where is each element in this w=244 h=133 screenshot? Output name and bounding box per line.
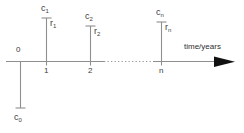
axis-tick-label-n: n <box>159 67 163 75</box>
cash-flow-label-c0-main: c <box>14 112 19 122</box>
axis-tick-label-2-text: 2 <box>88 66 92 75</box>
cash-flow-label-cn-main: c <box>156 7 161 17</box>
rate-label-rn-sub: n <box>168 27 171 33</box>
cash-flow-label-c0-sub: 0 <box>19 117 22 123</box>
cash-flow-label-c2-sub: 2 <box>90 16 93 22</box>
cash-flow-label-c2-main: c <box>85 11 90 21</box>
rate-label-r1-sub: 1 <box>53 23 56 29</box>
axis-tick-label-1: 1 <box>44 67 48 75</box>
right-arrow-icon <box>214 57 235 68</box>
cash-flow-label-c2: c2 <box>85 12 93 21</box>
cash-flow-label-c1: c1 <box>41 4 49 13</box>
axis-tick-label-0-text: 0 <box>16 45 20 54</box>
time-axis-caption-text: time/years <box>184 42 221 51</box>
cash-flow-label-c0: c0 <box>14 113 22 122</box>
rate-label-rn: rn <box>165 23 171 32</box>
time-axis-caption: time/years <box>184 43 221 51</box>
cash-flow-timeline-diagram: 0 c0 c1 r1 1 c2 r2 2 cn rn n time/years <box>0 0 244 133</box>
axis-tick-label-2: 2 <box>88 67 92 75</box>
axis-tick-label-1-text: 1 <box>44 66 48 75</box>
axis-tick-label-n-text: n <box>159 66 163 75</box>
rate-label-r2-sub: 2 <box>97 31 100 37</box>
rate-label-r1: r1 <box>50 19 56 28</box>
cash-flow-label-c1-sub: 1 <box>46 8 49 14</box>
axis-tick-label-0: 0 <box>16 46 20 54</box>
cash-flow-label-c1-main: c <box>41 3 46 13</box>
diagram-canvas <box>0 0 244 133</box>
cash-flow-label-cn-sub: n <box>161 12 164 18</box>
cash-flow-label-cn: cn <box>156 8 164 17</box>
rate-label-r2: r2 <box>94 27 100 36</box>
